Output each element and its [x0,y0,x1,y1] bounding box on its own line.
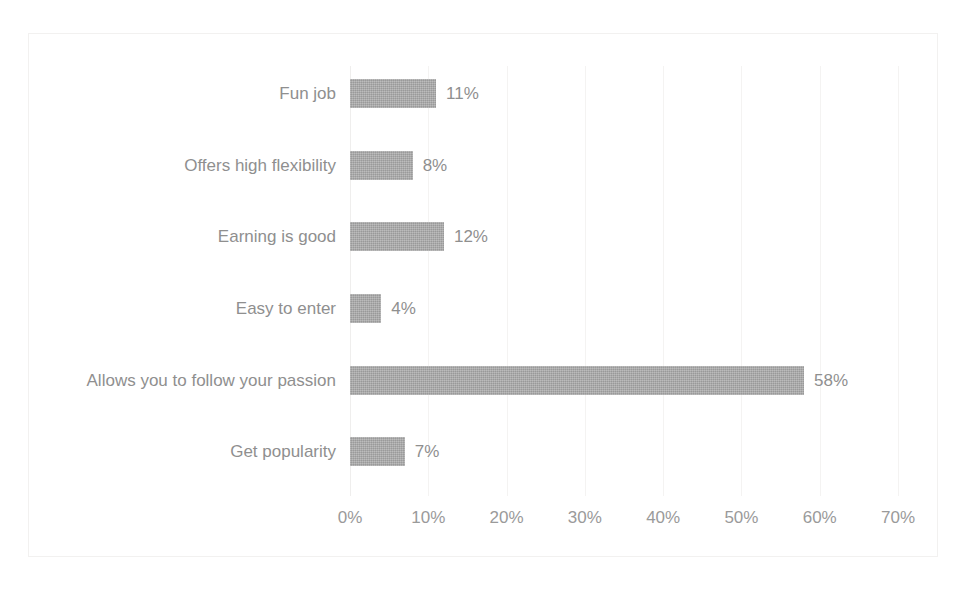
bar [350,222,444,251]
bar [350,294,381,323]
category-label: Fun job [279,79,336,108]
bar-row: Offers high flexibility8% [350,138,898,210]
x-tick-label: 0% [338,508,363,528]
category-label: Allows you to follow your passion [87,366,336,395]
bar [350,437,405,466]
x-tick-label: 60% [803,508,837,528]
bar-value-label: 11% [446,79,479,108]
x-tick-label: 40% [646,508,680,528]
category-label: Earning is good [218,222,336,251]
bar-row: Get popularity7% [350,424,898,496]
bar [350,79,436,108]
bar-value-label: 12% [454,222,488,251]
x-tick-label: 10% [411,508,445,528]
bar [350,151,413,180]
category-label: Offers high flexibility [184,151,336,180]
bar-value-label: 8% [423,151,448,180]
category-label: Easy to enter [236,294,336,323]
x-tick-label: 30% [568,508,602,528]
plot-area: Fun job11%Offers high flexibility8%Earni… [350,66,898,496]
bar-row: Easy to enter4% [350,281,898,353]
x-tick-label: 20% [490,508,524,528]
bar-row: Fun job11% [350,66,898,138]
x-tick-label: 50% [724,508,758,528]
bar-row: Allows you to follow your passion58% [350,353,898,425]
bar-value-label: 58% [814,366,848,395]
bar [350,366,804,395]
gridline-70 [898,66,899,496]
bar-value-label: 4% [391,294,416,323]
x-axis-tick-labels: 0%10%20%30%40%50%60%70% [350,508,898,534]
x-tick-label: 70% [881,508,915,528]
bar-row: Earning is good12% [350,209,898,281]
bar-value-label: 7% [415,437,440,466]
chart-container: Fun job11%Offers high flexibility8%Earni… [0,0,969,590]
category-label: Get popularity [230,437,336,466]
